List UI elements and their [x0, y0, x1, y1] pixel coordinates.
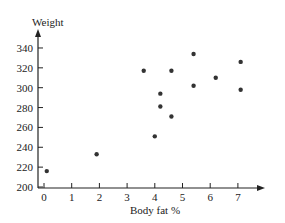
- axes: 01234567200220240260280300320340: [17, 29, 266, 203]
- data-point: [238, 87, 242, 91]
- scatter-chart: 01234567200220240260280300320340 Weight …: [0, 0, 285, 223]
- data-point: [191, 84, 195, 88]
- x-tick-label: 1: [69, 191, 75, 203]
- x-axis-arrow-icon: [257, 185, 265, 191]
- y-tick-label: 220: [17, 161, 34, 173]
- x-tick-label: 3: [124, 191, 130, 203]
- data-point: [94, 152, 98, 156]
- y-tick-label: 300: [17, 82, 34, 94]
- data-point: [169, 114, 173, 118]
- x-axis-label: Body fat %: [130, 204, 180, 216]
- data-point: [238, 60, 242, 64]
- data-point: [169, 69, 173, 73]
- data-point: [158, 104, 162, 108]
- x-tick-label: 0: [41, 191, 47, 203]
- y-tick-label: 340: [17, 42, 34, 54]
- y-tick-label: 320: [17, 62, 34, 74]
- data-point: [214, 76, 218, 80]
- data-point: [45, 169, 49, 173]
- x-tick-label: 2: [97, 191, 103, 203]
- y-tick-label: 280: [17, 102, 34, 114]
- data-point: [142, 69, 146, 73]
- x-tick-label: 4: [152, 191, 158, 203]
- y-tick-label: 200: [17, 181, 34, 193]
- data-point: [153, 134, 157, 138]
- y-tick-label: 240: [17, 141, 34, 153]
- data-point: [191, 52, 195, 56]
- y-axis-label: Weight: [32, 16, 64, 28]
- y-axis-arrow-icon: [35, 29, 41, 37]
- x-tick-label: 7: [235, 191, 241, 203]
- data-points: [45, 52, 243, 174]
- x-tick-label: 6: [207, 191, 213, 203]
- x-tick-label: 5: [180, 191, 186, 203]
- y-tick-label: 260: [17, 121, 34, 133]
- data-point: [158, 91, 162, 95]
